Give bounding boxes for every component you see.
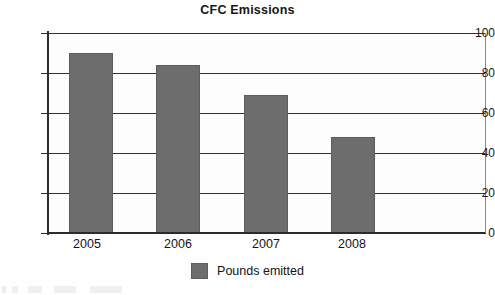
x-label-2007: 2007 <box>236 237 296 251</box>
y-tick-mark-0 <box>41 233 48 234</box>
y-axis-line <box>47 31 49 235</box>
x-axis-line <box>47 232 486 234</box>
bar-2005 <box>69 53 113 233</box>
chart-title: CFC Emissions <box>0 3 495 17</box>
y-tick-label-100: 100 <box>457 26 495 40</box>
bar-2007 <box>244 95 288 233</box>
y-tick-mark-80 <box>41 73 48 74</box>
plot-right-border <box>485 33 486 233</box>
chart-figure: CFC Emissions 100 80 60 40 20 0 2005 200… <box>0 0 495 295</box>
chart-legend: Pounds emitted <box>0 263 495 279</box>
x-label-2005: 2005 <box>57 237 117 251</box>
scan-artifact <box>2 286 122 293</box>
y-tick-label-0: 0 <box>457 226 495 240</box>
x-label-2006: 2006 <box>148 237 208 251</box>
y-tick-label-60: 60 <box>457 106 495 120</box>
bar-2006 <box>156 65 200 233</box>
y-tick-mark-100 <box>41 33 48 34</box>
gridline-100 <box>48 33 486 34</box>
y-tick-label-20: 20 <box>457 186 495 200</box>
y-tick-mark-20 <box>41 193 48 194</box>
y-tick-label-80: 80 <box>457 66 495 80</box>
x-label-2008: 2008 <box>322 237 382 251</box>
plot-area <box>48 33 486 233</box>
bar-2008 <box>331 137 375 233</box>
legend-label-pounds-emitted: Pounds emitted <box>217 264 304 278</box>
legend-swatch-pounds-emitted <box>191 263 208 279</box>
gridline-80 <box>48 73 486 74</box>
y-tick-mark-60 <box>41 113 48 114</box>
y-tick-mark-40 <box>41 153 48 154</box>
y-tick-label-40: 40 <box>457 146 495 160</box>
